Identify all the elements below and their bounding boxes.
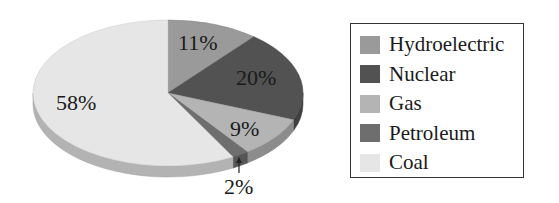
label-nuclear: 20% <box>236 65 276 90</box>
label-gas: 9% <box>230 116 259 141</box>
legend-item-gas: Gas <box>360 89 523 119</box>
legend-label: Petroleum <box>389 123 475 144</box>
legend-item-coal: Coal <box>360 148 523 178</box>
swatch-nuclear <box>360 65 380 83</box>
legend-label: Gas <box>389 93 422 114</box>
legend-label: Hydroelectric <box>389 34 504 55</box>
label-hydroelectric: 11% <box>178 30 218 55</box>
legend-label: Nuclear <box>389 64 455 85</box>
legend: Hydroelectric Nuclear Gas Petroleum Coal <box>350 23 524 178</box>
legend-label: Coal <box>389 152 429 173</box>
label-coal: 58% <box>56 90 96 115</box>
label-petroleum: 2% <box>224 174 253 199</box>
swatch-coal <box>360 154 380 172</box>
swatch-hydroelectric <box>360 36 380 54</box>
swatch-gas <box>360 95 380 113</box>
pie-chart: 11% 20% 58% 9% 2% <box>0 0 340 203</box>
legend-item-petroleum: Petroleum <box>360 119 523 149</box>
legend-item-hydroelectric: Hydroelectric <box>360 30 523 60</box>
legend-item-nuclear: Nuclear <box>360 60 523 90</box>
swatch-petroleum <box>360 124 380 142</box>
